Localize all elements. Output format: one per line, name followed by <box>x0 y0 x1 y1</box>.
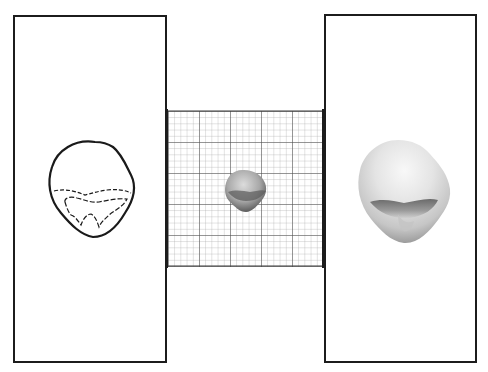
photo-panel <box>324 14 477 363</box>
tooth-outline-drawing <box>15 17 165 361</box>
grid-paper-panel <box>166 109 324 268</box>
crown-outline <box>49 142 133 237</box>
millimeter-grid <box>166 109 324 268</box>
dashed-contour-upper <box>54 190 131 195</box>
drawing-panel <box>13 15 167 363</box>
enlarged-tooth-photo <box>326 16 475 361</box>
tooth-crown <box>358 140 450 243</box>
